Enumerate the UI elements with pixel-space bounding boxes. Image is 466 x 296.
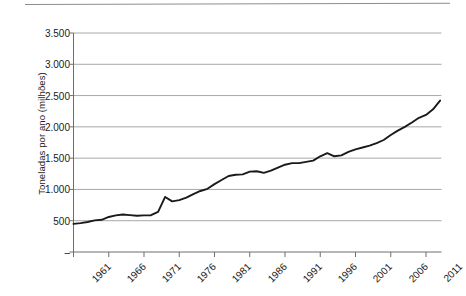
x-tick-label: 2006 (406, 261, 430, 285)
x-tick-label: 1961 (89, 261, 113, 285)
x-tick-label: 1996 (336, 261, 360, 285)
x-tick-label: 1986 (265, 261, 289, 285)
x-tick-label: 1966 (124, 261, 148, 285)
x-tick-label: 1971 (160, 261, 184, 285)
x-tick-label: 2011 (441, 261, 464, 284)
x-tick-label: 1976 (195, 261, 219, 285)
x-axis-tick-labels: 1961196619711976198119861991199620012006… (0, 0, 466, 296)
x-tick-label: 2001 (371, 261, 395, 285)
x-tick-label: 1981 (230, 261, 254, 285)
x-tick-label: 1991 (301, 261, 325, 285)
chart-figure: 3.5003.0002.5002.0001.5001.000500– Tonel… (0, 0, 466, 296)
